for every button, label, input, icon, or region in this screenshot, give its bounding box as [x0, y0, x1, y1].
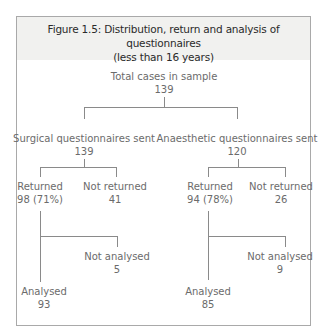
connector: [208, 167, 286, 168]
anaesthetic-returned-label: Returned: [187, 180, 233, 193]
anaesthetic-returned-node: Returned 94 (78%): [187, 180, 233, 206]
surgical-returned-value: 98 (71%): [17, 193, 63, 206]
anaesthetic-not-analysed-value: 9: [247, 263, 313, 276]
surgical-returned-label: Returned: [17, 180, 63, 193]
connector: [84, 107, 85, 119]
root-node: Total cases in sample 139: [111, 70, 218, 96]
connector: [117, 236, 118, 247]
root-value: 139: [111, 83, 218, 96]
connector: [116, 167, 117, 177]
anaesthetic-not-analysed-node: Not analysed 9: [247, 250, 313, 276]
connector: [285, 167, 286, 177]
connector: [84, 159, 85, 167]
anaesthetic-label: Anaesthetic questionnaires sent: [157, 132, 318, 145]
anaesthetic-node: Anaesthetic questionnaires sent 120: [157, 132, 318, 158]
surgical-value: 139: [13, 145, 155, 158]
anaesthetic-analysed-label: Analysed: [185, 285, 231, 298]
figure-title-line2: (less than 16 years): [17, 50, 310, 64]
connector: [237, 107, 238, 119]
anaesthetic-analysed-node: Analysed 85: [185, 285, 231, 311]
anaesthetic-not-analysed-label: Not analysed: [247, 250, 313, 263]
connector: [84, 107, 238, 108]
anaesthetic-value: 120: [157, 145, 318, 158]
surgical-not-analysed-value: 5: [84, 263, 150, 276]
anaesthetic-not-returned-value: 26: [249, 193, 313, 206]
anaesthetic-not-returned-node: Not returned 26: [249, 180, 313, 206]
connector: [208, 236, 286, 237]
figure-header: Figure 1.5: Distribution, return and ana…: [17, 17, 310, 60]
figure-title-line1: Figure 1.5: Distribution, return and ana…: [17, 22, 310, 50]
connector: [164, 97, 165, 107]
connector: [40, 236, 118, 237]
surgical-not-returned-label: Not returned: [83, 180, 147, 193]
surgical-node: Surgical questionnaires sent 139: [13, 132, 155, 158]
surgical-not-analysed-label: Not analysed: [84, 250, 150, 263]
figure-title: Figure 1.5: Distribution, return and ana…: [17, 17, 310, 64]
surgical-not-returned-value: 41: [83, 193, 147, 206]
anaesthetic-analysed-value: 85: [185, 298, 231, 311]
connector: [238, 159, 239, 167]
surgical-analysed-node: Analysed 93: [21, 285, 67, 311]
surgical-analysed-value: 93: [21, 298, 67, 311]
surgical-label: Surgical questionnaires sent: [13, 132, 155, 145]
anaesthetic-not-returned-label: Not returned: [249, 180, 313, 193]
connector: [208, 211, 209, 280]
connector: [40, 167, 117, 168]
figure-frame: Figure 1.5: Distribution, return and ana…: [16, 16, 311, 326]
surgical-not-returned-node: Not returned 41: [83, 180, 147, 206]
connector: [208, 167, 209, 177]
surgical-analysed-label: Analysed: [21, 285, 67, 298]
connector: [40, 167, 41, 177]
connector: [285, 236, 286, 247]
root-label: Total cases in sample: [111, 70, 218, 83]
surgical-not-analysed-node: Not analysed 5: [84, 250, 150, 276]
connector: [40, 211, 41, 282]
anaesthetic-returned-value: 94 (78%): [187, 193, 233, 206]
surgical-returned-node: Returned 98 (71%): [17, 180, 63, 206]
